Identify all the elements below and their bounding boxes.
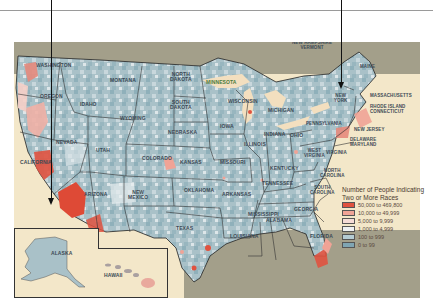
state-label-arizona: ARIZONA <box>84 192 107 197</box>
legend-swatch <box>342 202 355 208</box>
state-label-nebraska: NEBRASKA <box>168 130 197 135</box>
state-label-illinois: ILLINOIS <box>244 142 266 147</box>
legend-label: 10,000 to 49,999 <box>358 210 399 216</box>
legend-item: 0 to 99 <box>342 242 432 250</box>
state-label-georgia: GEORGIA <box>294 207 318 212</box>
state-label-arkansas: ARKANSAS <box>222 192 251 197</box>
state-label-new-mexico: NEWMEXICO <box>128 190 148 200</box>
legend-label: 100 to 999 <box>358 234 384 240</box>
state-label-wisconsin: WISCONSIN <box>228 99 258 104</box>
state-label-hawaii: HAWAII <box>104 273 122 278</box>
state-label-south-carolina: SOUTHCAROLINA <box>310 185 335 195</box>
state-label-washington: WASHINGTON <box>36 63 71 68</box>
state-label-iowa: IOWA <box>220 124 234 129</box>
legend-title: Number of People Indicating Two or More … <box>342 186 432 201</box>
state-label-idaho: IDAHO <box>80 102 97 107</box>
state-label-ohio: OHIO <box>290 133 303 138</box>
state-label-south-dakota: SOUTHDAKOTA <box>170 100 192 110</box>
state-label-missouri: MISSOURI <box>220 160 246 165</box>
pointer-line-left <box>51 0 52 200</box>
legend-swatch <box>342 242 355 248</box>
legend-swatch <box>342 210 355 216</box>
state-label-montana: MONTANA <box>110 78 136 83</box>
top-rule <box>0 10 433 11</box>
pointer-line-right <box>341 0 342 84</box>
hawaii-inset: HAWAII <box>98 248 168 298</box>
legend-item: 100 to 999 <box>342 234 432 242</box>
legend-swatch <box>342 234 355 240</box>
state-label-minnesota: MINNESOTA <box>206 80 237 85</box>
state-label-kansas: KANSAS <box>180 160 202 165</box>
state-label-virginia: VIRGINIA <box>326 150 347 155</box>
legend-swatch <box>342 226 355 232</box>
state-label-pennsylvania: PENNSYLVANIA <box>306 121 342 126</box>
alaska-inset: ALASKA <box>14 228 99 298</box>
state-label-maine: MAINE <box>360 64 375 69</box>
state-label-texas: TEXAS <box>176 226 193 231</box>
callout-new-hampshire-vermont: NEW HAMPSHIREVERMONT <box>292 42 332 50</box>
legend-item: 1,000 to 4,999 <box>342 226 432 234</box>
state-label-california: CALIFORNIA <box>20 160 52 165</box>
map-legend: Number of People Indicating Two or More … <box>342 186 432 249</box>
legend-label: 50,000 to 469,800 <box>358 202 402 208</box>
state-label-tennessee: TENNESSEE <box>262 181 293 186</box>
state-label-indiana: INDIANA <box>264 132 286 137</box>
legend-item: 50,000 to 469,800 <box>342 202 432 210</box>
state-label-florida: FLORIDA <box>310 234 333 239</box>
state-label-oklahoma: OKLAHOMA <box>184 188 214 193</box>
state-label-michigan: MICHIGAN <box>268 108 294 113</box>
state-label-utah: UTAH <box>96 148 110 153</box>
state-label-louisiana: LOUISIANA <box>230 234 258 239</box>
state-label-north-dakota: NORTHDAKOTA <box>170 72 192 82</box>
legend-item: 5,000 to 9,999 <box>342 218 432 226</box>
map-frame: ALASKA HAWAII WASHINGTON OREGON IDAHO MO… <box>14 42 420 298</box>
state-label-kentucky: KENTUCKY <box>270 166 299 171</box>
legend-label: 0 to 99 <box>358 242 375 248</box>
legend-item: 10,000 to 49,999 <box>342 210 432 218</box>
callout-new-jersey: NEW JERSEY <box>354 127 385 132</box>
state-label-colorado: COLORADO <box>142 156 172 161</box>
callout-rhode-island-connecticut: RHODE ISLANDCONNECTICUT <box>370 104 405 114</box>
state-label-nevada: NEVADA <box>56 140 77 145</box>
callout-delaware-maryland: DELAWAREMARYLAND <box>350 137 376 147</box>
state-label-alabama: ALABAMA <box>266 218 292 223</box>
legend-swatch <box>342 218 355 224</box>
state-label-wyoming: WYOMING <box>120 116 146 121</box>
arrowhead-left-icon <box>48 198 54 205</box>
arrowhead-right-icon <box>338 82 344 89</box>
state-label-north-carolina: NORTHCAROLINA <box>320 168 345 178</box>
legend-label: 1,000 to 4,999 <box>358 226 393 232</box>
state-label-new-york: NEWYORK <box>334 93 347 103</box>
callout-massachusetts: MASSACHUSETTS <box>370 93 412 98</box>
state-label-west-virginia: WESTVIRGINIA <box>304 148 325 158</box>
alaska-shape <box>15 229 97 295</box>
state-label-alaska: ALASKA <box>51 251 72 256</box>
legend-label: 5,000 to 9,999 <box>358 218 393 224</box>
